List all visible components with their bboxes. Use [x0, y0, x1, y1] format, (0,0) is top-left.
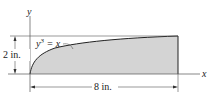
arrow-up-icon — [14, 36, 17, 41]
width-label: 8 in. — [94, 81, 112, 92]
arrow-right-icon — [173, 86, 178, 89]
arrow-left-icon — [30, 86, 35, 89]
curve-equation-label: y3 = x — [35, 37, 61, 49]
area-diagram: 2 in. 8 in. y x y3 = x — [0, 0, 216, 107]
x-axis-label: x — [201, 68, 207, 79]
height-label: 2 in. — [3, 49, 21, 60]
y-axis-label: y — [26, 6, 32, 17]
arrow-down-icon — [14, 69, 17, 74]
